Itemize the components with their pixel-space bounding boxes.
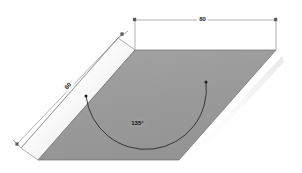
top-dimension: 80 <box>133 14 277 50</box>
top-dimension-label: 80 <box>199 16 206 22</box>
side-dim-tick-top <box>120 32 123 35</box>
top-dim-tick-left <box>133 18 136 21</box>
top-dim-tick-right <box>274 18 277 21</box>
diagram-canvas: 80 60 135° <box>0 0 302 173</box>
angle-arc-start-dot <box>85 95 88 98</box>
side-dim-tick-bottom <box>15 142 18 145</box>
geometry-diagram: 80 60 135° <box>0 0 302 173</box>
angle-arc-end-dot <box>205 81 208 84</box>
angle-label: 135° <box>131 120 144 126</box>
